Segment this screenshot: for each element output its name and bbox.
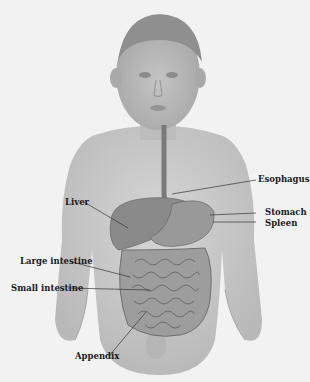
label-stomach: Stomach xyxy=(265,207,307,217)
label-liver: Liver xyxy=(65,197,89,207)
label-spleen: Spleen xyxy=(265,218,297,228)
digestive-system-diagram: Esophagus Liver Stomach Spleen Large int… xyxy=(0,0,310,382)
body-illustration xyxy=(0,0,310,382)
label-appendix: Appendix xyxy=(75,351,119,361)
label-large-intestine: Large intestine xyxy=(20,256,93,266)
head xyxy=(110,14,206,130)
label-small-intestine: Small intestine xyxy=(11,283,83,293)
label-esophagus: Esophagus xyxy=(258,174,309,184)
